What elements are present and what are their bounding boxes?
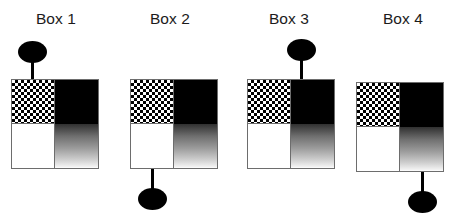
quadrant-bottom-right-2 — [174, 124, 217, 168]
box-square-4 — [356, 82, 444, 172]
box-square-2 — [130, 79, 218, 169]
connector-stem-2 — [151, 169, 154, 190]
box-group-2: Box 2 — [114, 0, 226, 223]
quadrant-bottom-left-3 — [248, 124, 291, 168]
box-label-4: Box 4 — [347, 9, 455, 28]
quadrant-bottom-left-1 — [12, 124, 55, 168]
quadrant-top-right-2 — [174, 80, 217, 124]
quadrant-top-right-3 — [291, 80, 334, 124]
box-group-1: Box 1 — [0, 0, 112, 223]
connector-node-2 — [138, 188, 167, 210]
quadrant-bottom-right-4 — [400, 127, 443, 171]
box-group-4: Box 4 — [347, 0, 455, 223]
quadrant-top-left-3 — [248, 80, 291, 124]
box-square-3 — [247, 79, 335, 169]
box-group-3: Box 3 — [233, 0, 345, 223]
box-diagram: Box 1 Box 2 Box 3 — [0, 0, 455, 223]
quadrant-top-right-4 — [400, 83, 443, 127]
connector-stem-3 — [300, 58, 303, 81]
quadrant-top-left-2 — [131, 80, 174, 124]
quadrant-top-right-1 — [55, 80, 98, 124]
quadrant-bottom-left-2 — [131, 124, 174, 168]
connector-stem-1 — [31, 60, 34, 81]
connector-node-4 — [408, 191, 437, 213]
quadrant-bottom-right-3 — [291, 124, 334, 168]
box-label-3: Box 3 — [233, 9, 345, 28]
quadrant-bottom-right-1 — [55, 124, 98, 168]
quadrant-bottom-left-4 — [357, 127, 400, 171]
box-label-2: Box 2 — [114, 9, 226, 28]
quadrant-top-left-1 — [12, 80, 55, 124]
connector-stem-4 — [421, 172, 424, 193]
box-square-1 — [11, 79, 99, 169]
box-label-1: Box 1 — [0, 9, 112, 28]
quadrant-top-left-4 — [357, 83, 400, 127]
